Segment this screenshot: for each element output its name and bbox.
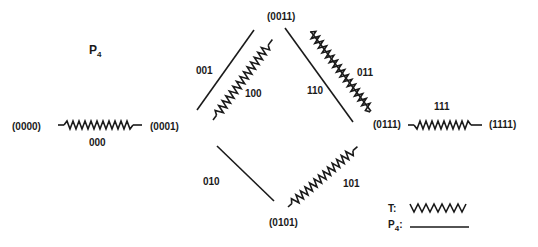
legend-label-t: T: [388, 204, 396, 214]
node-1111: (1111) [489, 120, 516, 130]
node-0011: (0011) [267, 12, 295, 22]
edge-label-101: 101 [343, 179, 360, 189]
legend-label-p4: P4: [388, 220, 402, 233]
diagram-canvas [0, 0, 538, 247]
edge-111-wavy [408, 121, 482, 129]
diagram-title: P4 [89, 44, 101, 59]
node-0000: (0000) [12, 122, 41, 132]
edge-label-010: 010 [203, 177, 220, 187]
edge-label-011: 011 [357, 68, 373, 78]
node-0111: (0111) [373, 120, 401, 130]
title-subscript: 4 [97, 50, 101, 59]
title-text: P [89, 43, 97, 57]
node-0001: (0001) [150, 122, 179, 132]
edge-label-100: 100 [245, 89, 262, 99]
legend-p4-colon: : [399, 219, 402, 230]
edge-label-000: 000 [89, 138, 106, 148]
edge-010-solid [217, 146, 274, 201]
legend-p4-text: P [388, 219, 395, 230]
edge-label-001: 001 [196, 66, 213, 76]
edge-101-wavy [285, 144, 360, 210]
node-0101: (0101) [269, 218, 298, 228]
edge-label-111: 111 [434, 102, 450, 112]
edge-100-wavy [210, 37, 276, 122]
edge-000-wavy [58, 121, 142, 129]
legend-wavy-sample [410, 204, 466, 212]
edge-label-110: 110 [307, 86, 323, 96]
